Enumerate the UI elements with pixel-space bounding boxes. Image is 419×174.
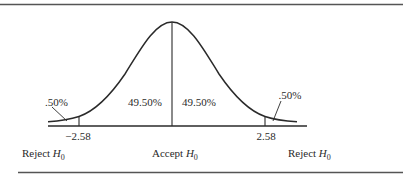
right-tail-percent: .50% [279,89,302,101]
right-center-percent: 49.50% [182,96,216,108]
left-critical-value: −2.58 [65,130,91,142]
normal-distribution-figure: .50% 49.50% 49.50% .50% −2.58 2.58 Rejec… [0,0,419,174]
left-tail-percent: .50% [45,96,68,108]
right-tail-pointer [273,101,281,121]
left-tail-pointer [52,107,67,121]
right-critical-value: 2.58 [256,130,276,142]
left-reject-label: Reject H0 [22,147,65,162]
right-reject-label: Reject H0 [288,147,331,162]
left-center-percent: 49.50% [128,96,162,108]
accept-label: Accept H0 [152,147,198,162]
